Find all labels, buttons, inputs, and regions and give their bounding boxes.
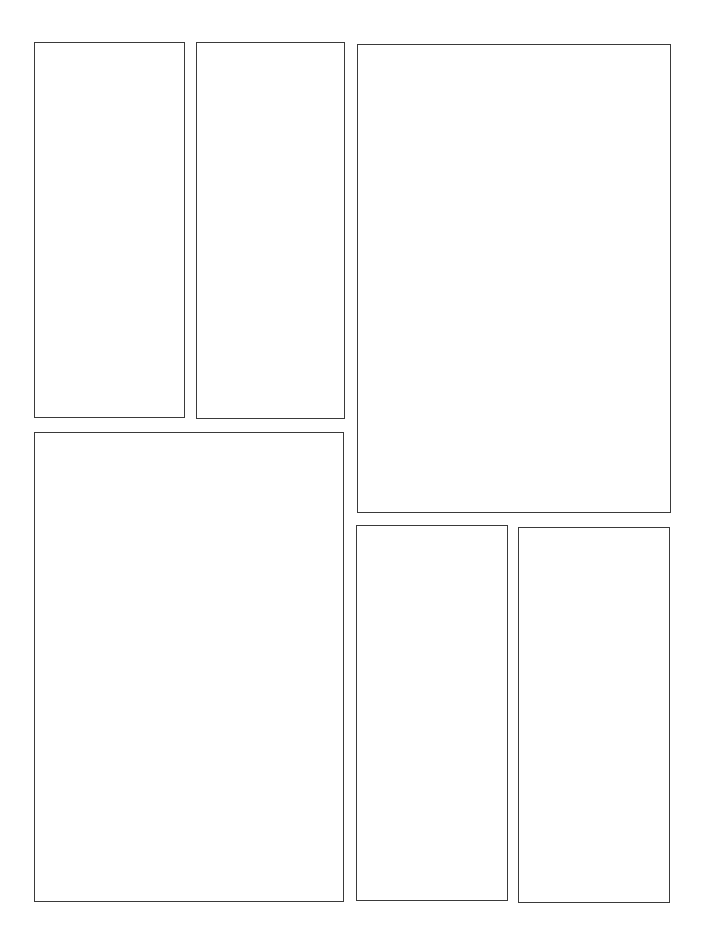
- panel-6: [518, 527, 670, 903]
- panel-4: [34, 432, 344, 902]
- panel-3: [357, 44, 671, 513]
- panel-1: [34, 42, 185, 418]
- panel-5: [356, 525, 508, 901]
- comic-page: [0, 0, 705, 946]
- panel-2: [196, 42, 345, 419]
